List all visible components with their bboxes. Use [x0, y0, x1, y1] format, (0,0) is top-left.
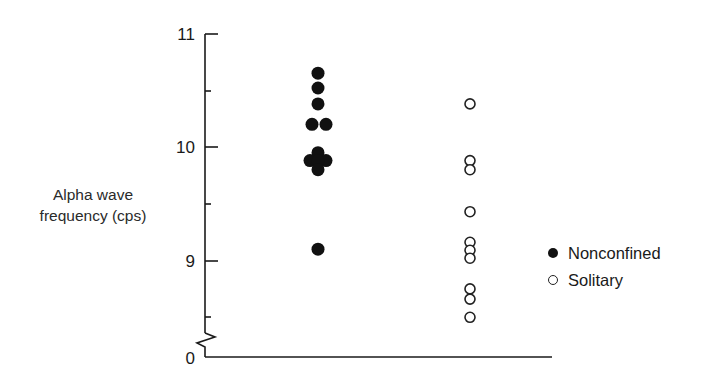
y-tick-9: 9 [186, 252, 195, 271]
y-axis [197, 34, 218, 357]
data-point-nonconfined [306, 118, 319, 131]
filled-circle-icon [548, 248, 558, 258]
data-point-solitary [465, 99, 475, 109]
legend-label-solitary: Solitary [568, 271, 623, 290]
data-point-solitary [465, 294, 475, 304]
data-point-nonconfined [312, 163, 325, 176]
legend-item-nonconfined: Nonconfined [548, 240, 661, 266]
series-solitary [465, 99, 475, 322]
data-point-solitary [465, 312, 475, 322]
data-point-solitary [465, 165, 475, 175]
y-axis-label-line1: Alpha wave [8, 184, 178, 205]
legend-item-solitary: Solitary [548, 267, 661, 293]
y-tick-0: 0 [186, 349, 195, 368]
data-point-solitary [465, 207, 475, 217]
open-circle-icon [548, 275, 558, 285]
legend: Nonconfined Solitary [548, 240, 661, 294]
data-point-nonconfined [312, 67, 325, 80]
data-point-solitary [465, 284, 475, 294]
data-point-nonconfined [312, 97, 325, 110]
series-nonconfined [304, 67, 333, 256]
data-point-nonconfined [320, 118, 333, 131]
y-axis-label: Alpha wave frequency (cps) [8, 184, 178, 226]
data-point-nonconfined [312, 243, 325, 256]
y-tick-10: 10 [176, 138, 195, 157]
data-point-solitary [465, 253, 475, 263]
y-tick-11: 11 [177, 25, 195, 44]
y-axis-label-line2: frequency (cps) [8, 205, 178, 226]
legend-label-nonconfined: Nonconfined [568, 244, 661, 263]
data-point-nonconfined [312, 82, 325, 95]
